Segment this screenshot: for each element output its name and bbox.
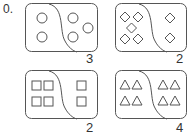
triangles-figure: [115, 70, 187, 120]
problem-label: 0.: [3, 2, 13, 16]
diamonds-figure: [115, 3, 187, 53]
panel-triangles-answer: 4: [176, 120, 183, 135]
panel-circles: [25, 3, 97, 53]
panel-diamonds: [115, 3, 187, 53]
panel-triangles: [115, 70, 187, 120]
panel-diamonds-answer: 2: [176, 51, 183, 66]
panel-circles-answer: 3: [86, 51, 93, 66]
panel-squares-answer: 2: [86, 120, 93, 135]
circles-figure: [25, 3, 99, 53]
squares-figure: [25, 70, 99, 120]
panel-squares: [25, 70, 97, 120]
